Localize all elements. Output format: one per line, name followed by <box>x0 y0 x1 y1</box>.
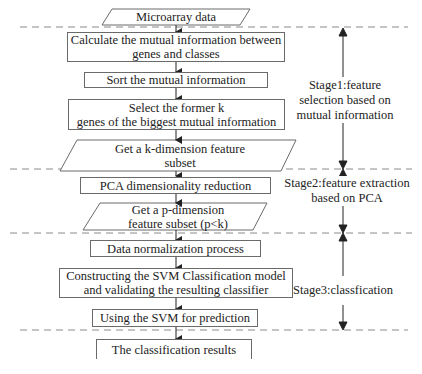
node-microarray-data: Microarray data <box>110 9 242 25</box>
node-label: Microarray data <box>136 10 216 24</box>
node-data-normalization: Data normalization process <box>90 240 261 257</box>
node-svm-prediction: Using the SVM for prediction <box>92 309 258 327</box>
stage1-label-line1: Stage1:feature <box>295 78 395 93</box>
stage3-label-line1: Stage3:classfication <box>293 283 397 298</box>
node-label: Using the SVM for prediction <box>100 311 250 325</box>
stage2-label-line1: Stage2:feature extraction <box>277 176 417 191</box>
node-label-line2: and validating the resulting classifier <box>84 283 269 297</box>
stage2-label-line2: based on PCA <box>277 191 417 206</box>
stage2-label: Stage2:feature extraction based on PCA <box>277 176 417 206</box>
node-label-line1: Constructing the SVM Classification mode… <box>66 269 285 283</box>
flowchart-diagram: Microarray data Calculate the mutual inf… <box>0 0 422 374</box>
stage1-label: Stage1:feature selection based on mutual… <box>295 78 395 123</box>
node-label-line2: genes and classes <box>132 47 219 61</box>
node-label-line2: subset <box>164 156 195 170</box>
node-pca-reduction: PCA dimensionality reduction <box>80 177 271 194</box>
node-k-dimension-subset: Get a k-dimension feature subset <box>80 141 280 171</box>
node-label: The classification results <box>112 343 236 357</box>
node-p-dimension-subset: Get a p-dimension feature subset (p<k) <box>98 203 258 231</box>
node-sort-mutual-information: Sort the mutual information <box>84 72 268 88</box>
stage3-label: Stage3:classfication <box>293 283 397 298</box>
node-construct-svm-model: Constructing the SVM Classification mode… <box>59 268 293 298</box>
node-label-line2: feature subset (p<k) <box>128 217 228 231</box>
node-label-line1: Get a k-dimension feature <box>115 142 245 156</box>
stage3-arrowhead-down <box>339 322 347 330</box>
node-classification-results: The classification results <box>96 339 252 359</box>
node-label-line2: genes of the biggest mutual information <box>77 115 277 129</box>
stage2-arrowhead-down <box>339 225 347 233</box>
node-label: PCA dimensionality reduction <box>100 179 251 193</box>
node-select-former-k-genes: Select the former k genes of the biggest… <box>68 99 285 130</box>
node-label-line1: Calculate the mutual information between <box>71 33 281 47</box>
node-label: Data normalization process <box>107 242 244 256</box>
node-label-line1: Select the former k <box>129 101 224 115</box>
node-label: Sort the mutual information <box>106 73 245 87</box>
node-label-line1: Get a p-dimension <box>132 203 224 217</box>
stage1-label-line3: mutual information <box>295 108 395 123</box>
stage3-arrowhead-up <box>339 233 347 241</box>
node-calculate-mutual-information: Calculate the mutual information between… <box>67 32 285 62</box>
stage1-arrowhead-down <box>339 161 347 169</box>
stage1-label-line2: selection based on <box>295 93 395 108</box>
stage1-arrowhead-up <box>339 28 347 36</box>
